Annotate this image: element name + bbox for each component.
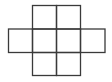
cell-r1-c2 (57, 29, 81, 53)
cell-r1-c3 (81, 29, 106, 53)
cell-r2-c1 (33, 53, 57, 76)
cell-r2-c2 (57, 53, 81, 76)
cell-r0-c2 (57, 6, 81, 30)
cell-r1-c0 (9, 29, 33, 53)
cell-r1-c1 (33, 29, 57, 53)
cell-r0-c1 (33, 6, 57, 30)
square-grid-diagram (0, 0, 112, 82)
